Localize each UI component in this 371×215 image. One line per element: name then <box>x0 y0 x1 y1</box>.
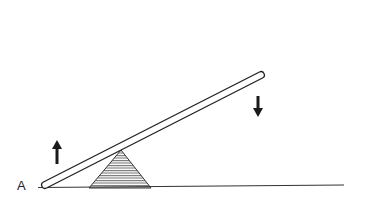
ground-line <box>38 185 344 188</box>
arrow-down-icon <box>253 96 263 117</box>
arrow-up-icon <box>52 140 62 164</box>
lever-beam <box>45 75 261 185</box>
point-a-label: A <box>17 178 26 193</box>
diagram-canvas <box>0 0 371 215</box>
lever-diagram: A <box>0 0 371 215</box>
